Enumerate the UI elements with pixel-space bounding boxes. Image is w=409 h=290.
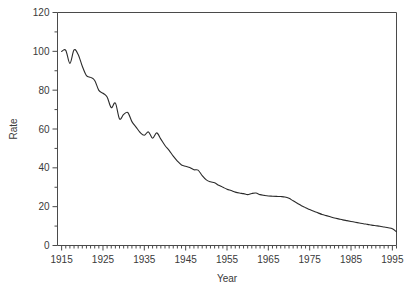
x-axis-title: Year (217, 273, 238, 284)
y-axis-tick-label: 0 (44, 240, 50, 251)
y-axis-title: Rate (8, 118, 19, 140)
x-axis-tick-label: 1935 (133, 254, 156, 265)
y-axis-tick-label: 100 (33, 46, 50, 57)
x-axis-tick-label: 1925 (92, 254, 115, 265)
chart-figure: 020406080100120 191519251935194519551965… (0, 0, 409, 290)
y-axis-tick-label: 80 (38, 85, 50, 96)
x-axis-tick-label: 1985 (340, 254, 363, 265)
y-axis-tick-label: 120 (33, 7, 50, 18)
x-axis-tick-label: 1995 (381, 254, 404, 265)
rate-vs-year-line-chart: 020406080100120 191519251935194519551965… (0, 0, 409, 290)
x-axis-ticks (62, 246, 397, 251)
plot-frame (58, 13, 397, 246)
rate-series-line (62, 50, 397, 232)
x-axis-tick-label: 1955 (216, 254, 239, 265)
x-axis-tick-label: 1915 (51, 254, 74, 265)
x-axis-tick-labels: 191519251935194519551965197519851995 (51, 254, 404, 265)
y-axis-tick-label: 60 (38, 124, 50, 135)
axis-frame (58, 13, 397, 246)
y-axis-tick-label: 20 (38, 201, 50, 212)
y-axis-tick-label: 40 (38, 162, 50, 173)
x-axis-tick-label: 1975 (299, 254, 322, 265)
x-axis-tick-label: 1945 (175, 254, 198, 265)
y-axis-ticks (53, 13, 58, 246)
x-axis-tick-label: 1965 (257, 254, 280, 265)
y-axis-tick-labels: 020406080100120 (33, 7, 50, 251)
